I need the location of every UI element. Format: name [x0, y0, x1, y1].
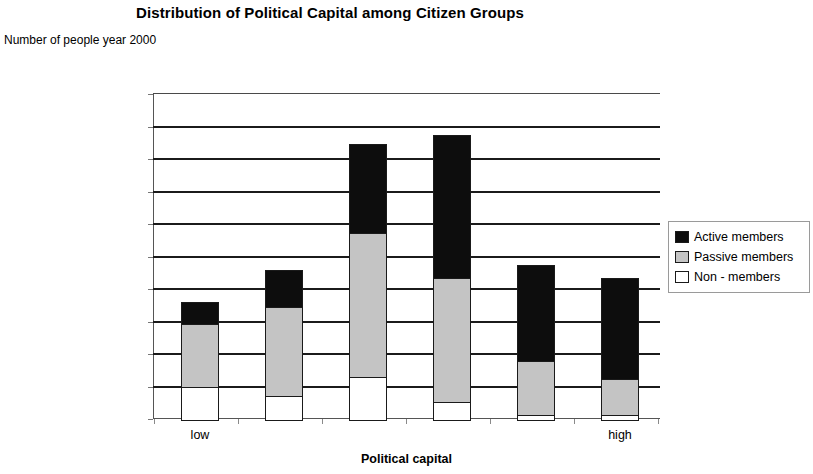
gridline — [153, 386, 660, 388]
x-tick-mark — [574, 419, 575, 424]
gray-square-icon — [675, 251, 689, 263]
stacked-bar[interactable] — [517, 94, 555, 419]
y-tick-mark — [148, 159, 153, 160]
stacked-bar[interactable] — [181, 94, 219, 419]
bar-segment[interactable] — [433, 135, 471, 279]
gridline — [153, 191, 660, 193]
legend-item-label: Passive members — [694, 250, 793, 264]
bar-segment[interactable] — [181, 323, 219, 388]
bar-segment[interactable] — [265, 307, 303, 397]
bar-segment[interactable] — [601, 378, 639, 416]
y-tick-mark — [148, 127, 153, 128]
bar-segment[interactable] — [265, 395, 303, 420]
plot-area: 2000000180000016000001400000120000010000… — [153, 94, 660, 419]
legend-item[interactable]: Active members — [675, 227, 804, 247]
y-tick-mark — [148, 257, 153, 258]
gridline — [153, 126, 660, 128]
bar-segment[interactable] — [349, 144, 387, 233]
chart-title: Distribution of Political Capital among … — [0, 4, 660, 21]
legend-item[interactable]: Passive members — [675, 247, 804, 267]
stacked-bar[interactable] — [265, 94, 303, 419]
y-tick-mark — [148, 354, 153, 355]
bar-segment[interactable] — [181, 387, 219, 421]
gridline — [153, 93, 660, 94]
bar-segment[interactable] — [349, 232, 387, 378]
legend-item-label: Non - members — [694, 270, 780, 284]
chart-subtitle: Number of people year 2000 — [4, 33, 156, 47]
x-axis-tick-label: high — [575, 428, 665, 442]
bar-segment[interactable] — [517, 361, 555, 416]
gridline — [153, 288, 660, 290]
gridline — [153, 353, 660, 355]
x-axis-tick-label: low — [155, 428, 245, 442]
x-axis-title: Political capital — [153, 452, 660, 466]
legend-item-label: Active members — [694, 230, 784, 244]
x-tick-mark — [490, 419, 491, 424]
x-tick-mark — [154, 419, 155, 424]
y-tick-mark — [148, 322, 153, 323]
bar-segment[interactable] — [433, 278, 471, 404]
y-tick-mark — [148, 192, 153, 193]
legend-item[interactable]: Non - members — [675, 267, 804, 287]
chart-container: Distribution of Political Capital among … — [0, 0, 813, 474]
stacked-bar[interactable] — [349, 94, 387, 419]
black-square-icon — [675, 231, 689, 243]
y-tick-mark — [148, 419, 153, 420]
y-tick-mark — [148, 94, 153, 95]
x-tick-mark — [406, 419, 407, 424]
x-tick-mark — [322, 419, 323, 424]
gridline — [153, 223, 660, 225]
y-tick-mark — [148, 387, 153, 388]
bar-segment[interactable] — [517, 265, 555, 362]
y-tick-mark — [148, 289, 153, 290]
bar-segment[interactable] — [433, 402, 471, 421]
chart-legend: Active membersPassive membersNon - membe… — [668, 221, 810, 293]
gridline — [153, 158, 660, 160]
y-tick-mark — [148, 224, 153, 225]
bar-segment[interactable] — [349, 377, 387, 421]
white-square-icon — [675, 271, 689, 283]
x-tick-mark — [658, 419, 659, 424]
bar-segment[interactable] — [181, 302, 219, 325]
stacked-bar[interactable] — [601, 94, 639, 419]
gridline — [153, 321, 660, 323]
stacked-bar[interactable] — [433, 94, 471, 419]
bar-segment[interactable] — [601, 278, 639, 380]
bar-segment[interactable] — [265, 270, 303, 309]
gridline — [153, 256, 660, 258]
x-tick-mark — [238, 419, 239, 424]
